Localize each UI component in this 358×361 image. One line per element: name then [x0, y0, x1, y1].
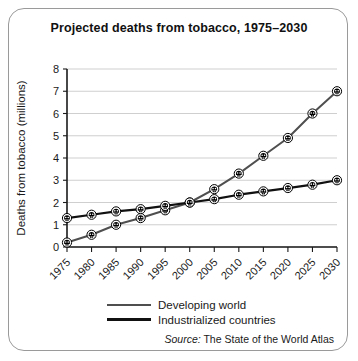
x-axis-tick-label: 2020	[268, 256, 294, 282]
legend-label-industrialized-countries: Industrialized countries	[158, 314, 276, 326]
y-axis-tick-label: 8	[53, 63, 59, 75]
data-point-marker	[210, 195, 219, 204]
legend-label-developing-world: Developing world	[158, 299, 246, 311]
chart-card: Projected deaths from tobacco, 1975–2030…	[8, 8, 348, 351]
x-axis-tick-label: 1980	[71, 256, 97, 282]
legend-item-industrialized-countries: Industrialized countries	[107, 312, 349, 327]
x-axis-tick-label: 2015	[243, 256, 269, 282]
y-axis-label: Deaths from tobacco (millions)	[15, 80, 27, 235]
x-axis-tick-label: 2025	[292, 256, 318, 282]
line-chart: 0123456781975198019851990199520002005201…	[9, 45, 349, 295]
data-point-marker	[332, 87, 341, 96]
data-point-marker	[136, 205, 145, 214]
data-point-marker	[136, 213, 145, 222]
y-axis-tick-label: 5	[53, 130, 59, 142]
y-axis-tick-label: 2	[53, 197, 59, 209]
series-line-industrialized-countries	[67, 180, 337, 218]
data-point-marker	[161, 201, 170, 210]
chart-legend: Developing world Industrialized countrie…	[9, 297, 349, 327]
x-axis-tick-label: 1995	[145, 256, 171, 282]
y-axis-tick-label: 6	[53, 108, 59, 120]
data-point-marker	[234, 169, 243, 178]
legend-item-developing-world: Developing world	[107, 297, 349, 312]
data-point-marker	[308, 109, 317, 118]
y-axis-tick-label: 4	[53, 152, 59, 164]
x-axis-tick-label: 1975	[47, 256, 73, 282]
data-point-marker	[87, 210, 96, 219]
y-axis-tick-label: 3	[53, 174, 59, 186]
data-point-marker	[259, 151, 268, 160]
data-point-marker	[87, 230, 96, 239]
data-point-marker	[283, 183, 292, 192]
plot-area: 0123456781975198019851990199520002005201…	[9, 45, 349, 295]
page-title: Projected deaths from tobacco, 1975–2030	[9, 21, 349, 35]
data-point-marker	[62, 238, 71, 247]
data-point-marker	[111, 207, 120, 216]
legend-swatch-industrialized-countries	[107, 318, 151, 321]
data-point-marker	[210, 185, 219, 194]
y-axis-tick-label: 7	[53, 85, 59, 97]
source-attribution: Source: The State of the World Atlas	[9, 333, 334, 345]
x-axis-tick-label: 2030	[317, 256, 343, 282]
data-point-marker	[332, 176, 341, 185]
legend-swatch-developing-world	[107, 304, 151, 306]
data-point-marker	[308, 180, 317, 189]
x-axis-tick-label: 1985	[96, 256, 122, 282]
source-text: The State of the World Atlas	[201, 333, 334, 345]
x-axis-tick-label: 1990	[120, 256, 146, 282]
data-point-marker	[283, 133, 292, 142]
y-axis-tick-label: 1	[53, 219, 59, 231]
x-axis-tick-label: 2000	[169, 256, 195, 282]
data-point-marker	[185, 198, 194, 207]
y-axis-tick-label: 0	[53, 241, 59, 253]
data-point-marker	[259, 187, 268, 196]
source-prefix: Source:	[165, 333, 201, 345]
x-axis-tick-label: 2010	[218, 256, 244, 282]
data-point-marker	[62, 213, 71, 222]
x-axis-tick-label: 2005	[194, 256, 220, 282]
data-point-marker	[111, 220, 120, 229]
data-point-marker	[234, 190, 243, 199]
